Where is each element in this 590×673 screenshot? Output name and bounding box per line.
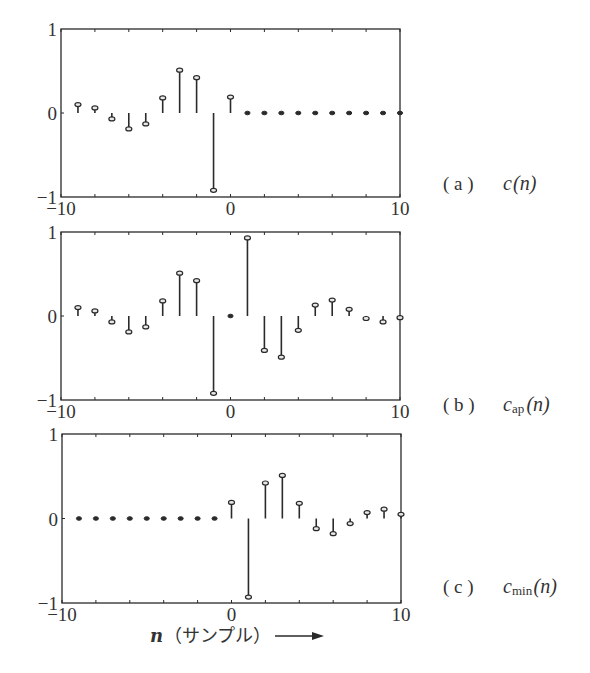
stem xyxy=(143,113,149,126)
stem xyxy=(262,481,268,518)
y-tick-label: 1 xyxy=(48,222,58,243)
stem xyxy=(346,307,352,316)
y-tick-label: 0 xyxy=(48,103,58,124)
stem xyxy=(279,473,285,518)
stem xyxy=(380,111,385,115)
x-tick-label: 0 xyxy=(227,604,237,625)
stem xyxy=(194,76,200,113)
stem xyxy=(296,111,301,115)
stem xyxy=(143,316,149,329)
stem xyxy=(127,517,132,521)
stem xyxy=(178,517,183,521)
stem xyxy=(312,303,318,316)
stem xyxy=(261,316,267,352)
x-tick-label: 0 xyxy=(226,401,236,422)
panel-label-b: ( b )cap(n) xyxy=(443,393,550,416)
stem xyxy=(160,96,166,113)
stem xyxy=(279,111,284,115)
stem xyxy=(347,519,353,526)
y-tick-label: 0 xyxy=(49,509,59,530)
stem xyxy=(245,111,250,115)
svg-text:min: min xyxy=(512,583,533,598)
x-axis-text: （サンプル） xyxy=(164,625,271,646)
stem xyxy=(397,316,403,320)
stem xyxy=(228,95,234,113)
stem xyxy=(397,111,402,115)
x-axis-var: n xyxy=(150,625,163,646)
stem xyxy=(212,517,217,521)
stem xyxy=(92,106,98,113)
panel-label-c: ( c )cmin(n) xyxy=(443,575,557,598)
x-tick-label: −10 xyxy=(47,604,77,625)
right-arrow-icon xyxy=(275,632,324,640)
stem xyxy=(364,111,369,115)
stem xyxy=(245,519,251,600)
y-tick-label: 1 xyxy=(48,19,58,40)
stem xyxy=(211,316,217,395)
stem xyxy=(364,511,370,519)
stem xyxy=(109,113,115,121)
stem xyxy=(93,517,98,521)
stem xyxy=(211,113,217,192)
stem xyxy=(75,103,81,113)
stem xyxy=(278,316,284,359)
panel-c: 10−1−10010( c )cmin(n) xyxy=(38,424,557,625)
svg-text:c: c xyxy=(503,575,512,597)
stem xyxy=(177,271,183,316)
x-axis-label: n （サンプル） xyxy=(150,625,324,646)
stem xyxy=(244,236,250,316)
stem xyxy=(262,111,267,115)
stem xyxy=(329,298,335,316)
stem xyxy=(330,111,335,115)
stem xyxy=(195,517,200,521)
svg-text:( c ): ( c ) xyxy=(443,576,474,598)
x-tick-label: 10 xyxy=(391,401,410,422)
stem xyxy=(160,299,166,316)
stem xyxy=(398,512,404,518)
stem xyxy=(363,316,369,321)
stem xyxy=(330,519,336,536)
svg-text:(n): (n) xyxy=(526,393,550,416)
panel-a: 10−1−10010( a )c(n) xyxy=(37,19,537,219)
stem-plot-figure: 10−1−10010( a )c(n)10−1−10010( b )cap(n)… xyxy=(0,0,590,673)
stem xyxy=(109,316,115,324)
x-tick-label: 0 xyxy=(226,198,236,219)
stem xyxy=(75,306,81,316)
y-tick-label: 1 xyxy=(49,424,59,445)
stem xyxy=(161,517,166,521)
panel-b: 10−1−10010( b )cap(n) xyxy=(37,222,550,422)
stem xyxy=(347,111,352,115)
stem xyxy=(229,500,235,518)
stem xyxy=(295,316,301,332)
y-tick-label: 0 xyxy=(48,306,58,327)
stem xyxy=(126,316,132,334)
x-tick-label: 10 xyxy=(391,198,410,219)
stem xyxy=(144,517,149,521)
stem xyxy=(76,517,81,521)
stem xyxy=(177,68,183,113)
stem xyxy=(313,111,318,115)
svg-text:(n): (n) xyxy=(513,172,537,195)
svg-text:(n): (n) xyxy=(534,575,558,598)
stem xyxy=(313,519,319,531)
stem xyxy=(92,309,98,316)
x-tick-label: −10 xyxy=(46,401,76,422)
stem xyxy=(296,501,302,518)
x-tick-label: 10 xyxy=(392,604,411,625)
stem xyxy=(380,316,386,324)
svg-text:( b ): ( b ) xyxy=(443,394,475,416)
panel-label-a: ( a )c(n) xyxy=(443,172,537,195)
svg-text:c: c xyxy=(503,393,512,415)
stem xyxy=(126,113,132,131)
stem xyxy=(194,279,200,316)
stem xyxy=(110,517,115,521)
x-tick-label: −10 xyxy=(46,198,76,219)
svg-text:( a ): ( a ) xyxy=(443,173,474,195)
svg-text:c: c xyxy=(503,172,512,194)
stem xyxy=(381,507,387,518)
stem xyxy=(228,314,233,318)
svg-text:ap: ap xyxy=(512,401,524,416)
